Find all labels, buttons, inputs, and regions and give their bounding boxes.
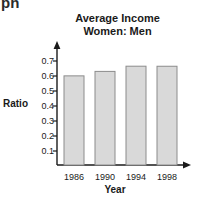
figure-container: ph Average Income Women: Men Ratio Year … [0, 0, 198, 199]
bar-1994 [126, 66, 146, 165]
y-axis-arrowhead [54, 41, 61, 49]
plot-area [0, 0, 198, 199]
bar-1986 [64, 76, 84, 165]
bar-1990 [95, 71, 115, 165]
x-axis-arrowhead [183, 162, 191, 169]
bar-series [64, 66, 177, 165]
bar-1998 [157, 66, 177, 165]
